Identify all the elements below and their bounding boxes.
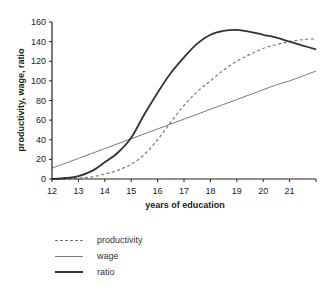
y-tick-label: 0 — [41, 174, 46, 184]
series-line-ratio — [52, 30, 316, 179]
x-tick-label: 15 — [126, 186, 136, 196]
y-tick-label: 80 — [36, 96, 46, 106]
thin-line-swatch-icon — [55, 256, 83, 257]
line-chart: 0204060801001201401601213141516171819202… — [0, 0, 335, 293]
y-tick-label: 20 — [36, 154, 46, 164]
x-tick-label: 16 — [153, 186, 163, 196]
legend-item-productivity: productivity — [55, 232, 143, 248]
y-axis-label: productivity, wage, ratio — [16, 48, 26, 151]
x-tick-label: 17 — [179, 186, 189, 196]
y-tick-label: 40 — [36, 135, 46, 145]
y-tick-label: 160 — [31, 17, 46, 27]
x-tick-label: 20 — [258, 186, 268, 196]
x-tick-label: 21 — [285, 186, 295, 196]
legend-item-wage: wage — [55, 248, 143, 264]
legend-label: productivity — [97, 235, 143, 245]
x-tick-label: 12 — [47, 186, 57, 196]
x-tick-label: 13 — [73, 186, 83, 196]
y-tick-label: 140 — [31, 37, 46, 47]
y-tick-label: 120 — [31, 56, 46, 66]
series-line-productivity — [52, 39, 316, 179]
legend-label: ratio — [97, 267, 115, 277]
plot-lines — [52, 30, 316, 179]
x-tick-label: 14 — [100, 186, 110, 196]
x-axis-label: years of education — [145, 200, 225, 210]
x-tick-label: 18 — [205, 186, 215, 196]
thick-line-swatch-icon — [55, 271, 83, 273]
legend-label: wage — [97, 251, 119, 261]
axes: 0204060801001201401601213141516171819202… — [31, 17, 316, 196]
legend-item-ratio: ratio — [55, 264, 143, 280]
legend: productivity wage ratio — [55, 232, 143, 280]
y-tick-label: 100 — [31, 76, 46, 86]
x-tick-label: 19 — [232, 186, 242, 196]
y-tick-label: 60 — [36, 115, 46, 125]
series-line-wage — [52, 71, 316, 168]
dashed-line-swatch-icon — [55, 240, 83, 241]
